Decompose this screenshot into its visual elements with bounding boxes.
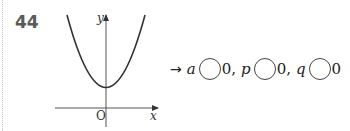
blank-circle-a[interactable]	[199, 58, 221, 80]
blank-circle-p[interactable]	[254, 58, 276, 80]
var-p: p	[241, 60, 251, 78]
blank-circle-q[interactable]	[309, 58, 331, 80]
var-q: q	[296, 60, 306, 78]
sep-a: ,	[231, 60, 236, 78]
rhs-a: 0	[222, 60, 232, 78]
sign-statement: → a 0, p 0, q 0	[170, 58, 341, 80]
x-axis-label: x	[150, 109, 157, 123]
var-a: a	[187, 60, 196, 78]
y-axis-label: y	[96, 11, 104, 25]
arrow-icon: →	[170, 61, 182, 77]
sep-p: ,	[286, 60, 291, 78]
rhs-q: 0	[332, 60, 342, 78]
origin-label: O	[96, 109, 106, 123]
parabola-graph: y O x	[0, 0, 175, 131]
rhs-p: 0	[277, 60, 287, 78]
